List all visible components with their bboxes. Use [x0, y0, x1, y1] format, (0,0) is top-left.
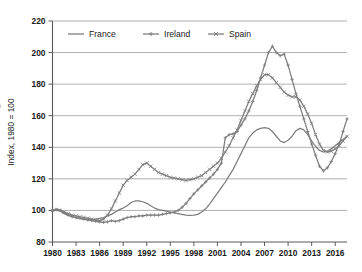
x-tick-label-1983: 1983	[67, 248, 86, 258]
x-tick-label-1995: 1995	[161, 248, 180, 258]
y-tick-label-120: 120	[32, 174, 46, 184]
y-tick-label-180: 180	[32, 79, 46, 89]
x-tick-label-2007: 2007	[255, 248, 274, 258]
x-tick-label-2013: 2013	[302, 248, 321, 258]
legend-label-ireland: Ireland	[164, 29, 190, 39]
chart-background	[0, 0, 362, 272]
x-tick-label-2010: 2010	[279, 248, 298, 258]
y-tick-label-80: 80	[36, 237, 46, 247]
x-tick-label-2016: 2016	[326, 248, 345, 258]
x-tick-label-1986: 1986	[90, 248, 109, 258]
legend-label-spain: Spain	[229, 29, 251, 39]
y-tick-label-140: 140	[32, 142, 46, 152]
y-tick-label-160: 160	[32, 111, 46, 121]
legend-label-france: France	[89, 29, 116, 39]
x-tick-label-2004: 2004	[232, 248, 251, 258]
y-tick-label-200: 200	[32, 48, 46, 58]
x-tick-label-1980: 1980	[43, 248, 62, 258]
x-tick-label-1992: 1992	[137, 248, 156, 258]
line-chart: 80100120140160180200220 1980198319861989…	[0, 0, 362, 272]
x-tick-label-1989: 1989	[114, 248, 133, 258]
y-tick-label-100: 100	[32, 205, 46, 215]
x-tick-label-1998: 1998	[185, 248, 204, 258]
y-axis-title: Index, 1980 = 100	[6, 98, 16, 166]
y-tick-label-220: 220	[32, 16, 46, 26]
x-tick-label-2001: 2001	[208, 248, 227, 258]
chart-canvas: 80100120140160180200220 1980198319861989…	[0, 0, 362, 272]
